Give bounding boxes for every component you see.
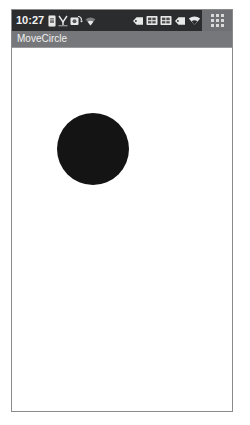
sim-card-icon — [48, 15, 56, 27]
wifi-icon — [188, 15, 201, 26]
app-canvas[interactable] — [12, 48, 232, 411]
app-grid-icon — [211, 14, 224, 27]
status-clock: 10:27 — [16, 15, 44, 26]
black-circle[interactable] — [57, 113, 129, 185]
signal-bars-icon — [58, 15, 68, 27]
app-grid-button[interactable] — [202, 10, 232, 31]
wifi-weak-icon — [85, 15, 96, 27]
device-frame: 10:27 — [11, 9, 233, 412]
status-bar: 10:27 — [12, 10, 232, 31]
battery-secondary-icon — [160, 15, 172, 26]
app-title: MoveCircle — [17, 34, 67, 44]
tag-icon — [132, 16, 144, 26]
battery-icon — [146, 15, 158, 26]
tag-secondary-icon — [174, 16, 186, 26]
app-title-bar: MoveCircle — [12, 31, 232, 48]
sync-icon — [70, 15, 83, 27]
status-left-icon-group — [48, 15, 96, 27]
